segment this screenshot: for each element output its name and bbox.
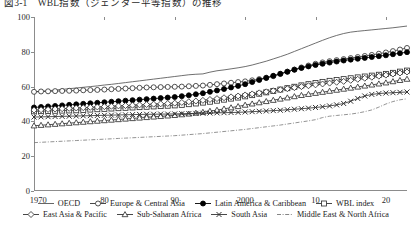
legend-item-europe-central-asia[interactable]: Europe & Central Asia: [89, 198, 185, 209]
legend-item-label: Latin America & Caribbean: [215, 198, 306, 209]
series-marker: [39, 89, 44, 94]
legend-item-label: South Asia: [231, 209, 267, 220]
legend-item-label: Sub-Saharan Africa: [137, 209, 201, 220]
series-marker: [397, 51, 402, 56]
series-marker: [186, 93, 191, 98]
legend-key-icon: [276, 210, 294, 219]
legend-key-icon: [22, 210, 40, 219]
series-marker: [109, 87, 114, 92]
figure-title: 図3-1 WBL指数（ジェンダー平等指数）の推移: [4, 0, 223, 9]
series-marker: [137, 85, 142, 90]
series-marker: [74, 88, 79, 93]
series-marker: [376, 54, 381, 59]
legend-key-icon: [37, 199, 55, 208]
series-marker: [158, 85, 163, 90]
series-marker: [151, 85, 156, 90]
series-marker: [285, 69, 290, 74]
y-tick-label: 0: [26, 187, 30, 196]
series-marker: [405, 50, 410, 55]
series-marker: [186, 84, 191, 89]
legend-item-sub-saharan-africa[interactable]: Sub-Saharan Africa: [116, 209, 201, 220]
legend-item-oecd[interactable]: OECD: [37, 198, 80, 209]
legend-item-middle-east-north-africa[interactable]: Middle East & North Africa: [276, 209, 389, 220]
legend-item-south-asia[interactable]: South Asia: [210, 209, 267, 220]
legend-key-icon: [116, 210, 134, 219]
series-marker: [179, 94, 184, 99]
series-marker: [278, 71, 283, 76]
series-marker: [130, 86, 135, 91]
series-marker: [292, 67, 297, 72]
series-marker: [320, 61, 325, 66]
series-marker: [257, 77, 262, 82]
series-marker: [355, 56, 360, 61]
series-marker: [383, 53, 388, 58]
series-marker: [53, 89, 58, 94]
series-marker: [193, 92, 198, 97]
plot-area: 020406080100 1970809020001020: [34, 17, 407, 191]
y-tick-mark: [31, 191, 34, 192]
legend-item-label: East Asia & Pacific: [43, 209, 107, 220]
series-marker: [369, 55, 374, 60]
series-marker: [229, 85, 234, 90]
legend-key-icon: [89, 199, 107, 208]
y-tick-label: 80: [22, 48, 31, 57]
y-tick-label: 60: [22, 82, 31, 91]
series-marker: [144, 85, 149, 90]
series-marker: [32, 89, 37, 94]
chart-legend: OECDEurope & Central AsiaLatin America &…: [0, 198, 411, 220]
series-marker: [355, 96, 360, 101]
legend-item-east-asia-pacific[interactable]: East Asia & Pacific: [22, 209, 107, 220]
series-marker: [116, 86, 121, 91]
series-marker: [67, 88, 72, 93]
series-marker: [81, 88, 86, 93]
legend-item-label: WBL index: [336, 198, 374, 209]
series-marker: [250, 80, 255, 85]
legend-item-wbl-index[interactable]: WBL index: [315, 198, 374, 209]
series-marker: [222, 87, 227, 92]
series-marker: [214, 88, 219, 93]
series-marker: [306, 64, 311, 69]
series-marker: [207, 82, 212, 87]
series-marker: [172, 84, 177, 89]
legend-key-icon: [315, 199, 333, 208]
series-marker: [313, 63, 318, 68]
series-marker: [390, 52, 395, 57]
legend-item-label: Europe & Central Asia: [110, 198, 185, 209]
series-marker: [123, 86, 128, 91]
series-marker: [200, 83, 205, 88]
series-marker: [88, 88, 93, 93]
legend-key-icon: [194, 199, 212, 208]
series-marker: [264, 75, 269, 80]
series-marker: [341, 58, 346, 63]
series-marker: [172, 95, 177, 100]
legend-key-icon: [210, 210, 228, 219]
series-marker: [60, 88, 65, 93]
series-marker: [214, 82, 219, 87]
series-marker: [46, 89, 51, 94]
legend-item-latin-america-caribbean[interactable]: Latin America & Caribbean: [194, 198, 306, 209]
legend-item-label: Middle East & North Africa: [297, 209, 389, 220]
series-marker: [229, 80, 234, 85]
series-marker: [95, 87, 100, 92]
series-marker: [362, 55, 367, 60]
series-marker: [200, 91, 205, 96]
series-marker: [179, 84, 184, 89]
series-marker: [158, 96, 163, 101]
series-marker: [236, 83, 241, 88]
series-marker: [151, 96, 156, 101]
series-marker: [404, 76, 410, 81]
series-marker: [165, 84, 170, 89]
series-marker: [348, 99, 353, 104]
legend-row: East Asia & PacificSub-Saharan AfricaSou…: [0, 209, 411, 220]
series-marker: [299, 65, 304, 70]
series-marker: [102, 87, 107, 92]
series-marker: [327, 60, 332, 65]
series-marker: [144, 97, 149, 102]
legend-item-label: OECD: [58, 198, 80, 209]
y-tick-label: 20: [22, 152, 31, 161]
series-marker: [207, 89, 212, 94]
figure-container: 図3-1 WBL指数（ジェンダー平等指数）の推移 020406080100 19…: [0, 0, 411, 232]
series-marker: [243, 82, 248, 87]
series-marker: [193, 83, 198, 88]
series-marker: [222, 81, 227, 86]
